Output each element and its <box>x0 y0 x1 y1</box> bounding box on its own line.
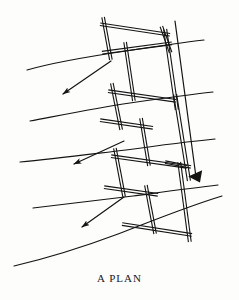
wall-mid-horz <box>100 119 153 129</box>
wall-low-horz <box>104 186 158 196</box>
figure-root: A PLAN <box>0 0 239 300</box>
wall-top-lower-edge <box>102 45 172 54</box>
wall-top-lower-edge <box>102 42 172 51</box>
architectural-plan-drawing <box>0 0 239 300</box>
slope-arrow-1 <box>63 61 111 94</box>
wall-step1-horz-edge <box>108 90 176 100</box>
building-walls-group <box>100 17 192 242</box>
wall-bottom-horz-edge <box>122 225 192 236</box>
plan-caption: A PLAN <box>97 272 142 284</box>
wall-low-left-edge <box>116 148 125 197</box>
wall-bottom-horz <box>122 223 192 236</box>
wall-mid-left-edge <box>113 83 122 130</box>
wall-top-upper-edge <box>100 26 170 36</box>
contour-lines-group <box>14 40 222 266</box>
wall-top-upper <box>100 23 170 36</box>
long-direction-arrow <box>175 21 196 177</box>
wall-step1-horz <box>108 90 176 102</box>
wall-top-lower <box>102 42 172 54</box>
caption-area: A PLAN <box>0 268 239 286</box>
wall-top-upper-edge <box>100 23 170 33</box>
wall-step1-horz-edge <box>108 92 176 102</box>
contour-1 <box>27 40 204 70</box>
